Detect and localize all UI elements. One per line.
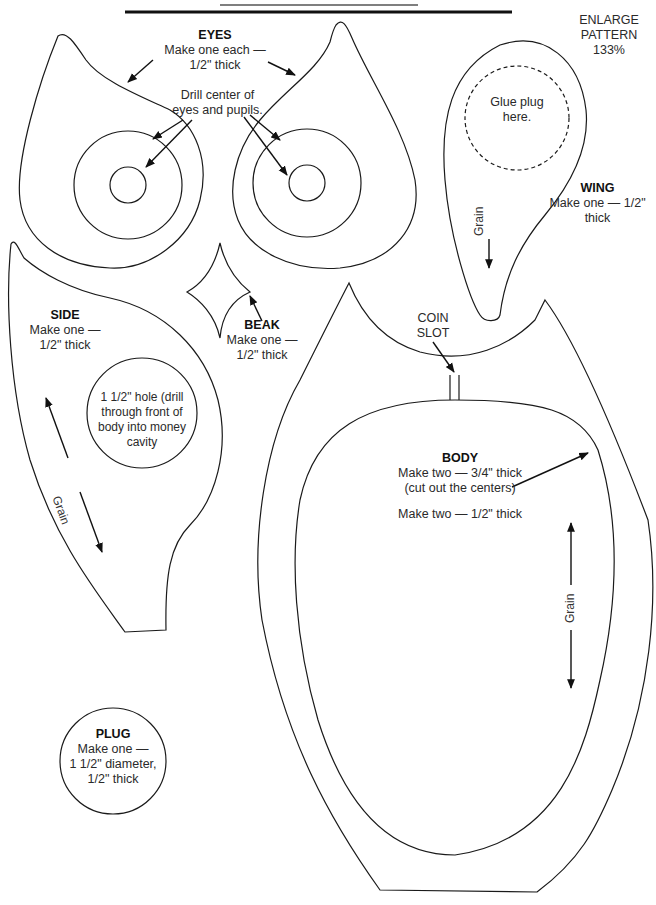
side-title: SIDE <box>20 308 110 323</box>
wing-grain-label: Grain <box>472 205 486 238</box>
side-grain-arrow-down <box>80 492 102 552</box>
plug-title: PLUG <box>63 727 163 742</box>
side-label: SIDE Make one — 1/2" thick <box>20 308 110 353</box>
drill-arrow-left-pupil <box>146 120 192 167</box>
wing-title: WING <box>540 181 655 196</box>
plug-label: PLUG Make one — 1 1/2" diameter, 1/2" th… <box>63 727 163 787</box>
eyes-label: EYES Make one each — 1/2" thick <box>150 28 280 73</box>
beak-title: BEAK <box>222 318 302 333</box>
drill-arrow-left-iris <box>153 120 183 139</box>
drill-note: Drill center of eyes and pupils. <box>165 88 270 118</box>
side-hole-note: 1 1/2" hole (drill through front of body… <box>92 390 192 450</box>
beak-label: BEAK Make one — 1/2" thick <box>222 318 302 363</box>
body-label: BODY Make two — 3/4" thick (cut out the … <box>390 451 530 496</box>
right-eye-iris <box>253 129 361 237</box>
enlarge-note: ENLARGE PATTERN 133% <box>564 13 654 58</box>
right-eye-pupil <box>289 165 325 201</box>
body-grain-label: Grain <box>563 592 577 625</box>
body-second-note: Make two — 1/2" thick <box>390 507 530 522</box>
body-title: BODY <box>390 451 530 466</box>
side-grain-arrow-up <box>46 398 68 458</box>
glue-note: Glue plug here. <box>477 95 557 125</box>
drill-arrow-right-pupil <box>244 117 287 175</box>
coin-slot-arrow <box>433 342 454 372</box>
coin-slot-label: COIN SLOT <box>408 311 458 341</box>
left-eye-pupil <box>110 167 146 203</box>
body-outline <box>258 283 653 892</box>
eyes-title: EYES <box>150 28 280 43</box>
wing-label: WING Make one — 1/2" thick <box>540 181 655 226</box>
